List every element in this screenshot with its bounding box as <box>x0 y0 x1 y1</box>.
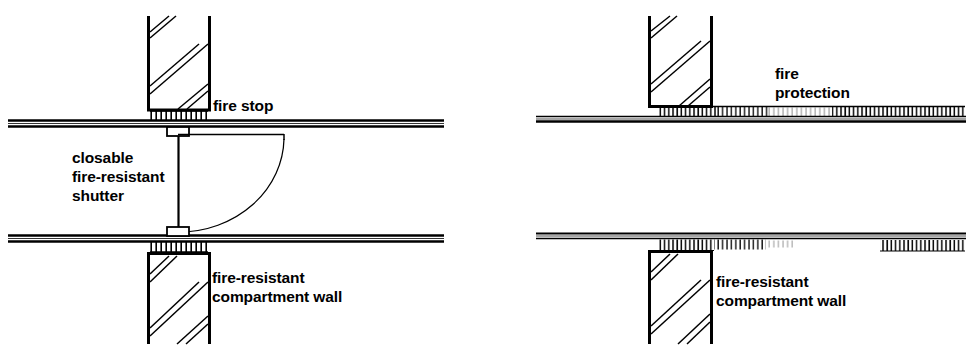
lower-compartment-wall-right <box>648 250 713 344</box>
label-closable-fire-resistant-shutter: closable fire-resistant shutter <box>72 148 165 205</box>
shutter-swing-arc-left <box>178 134 284 232</box>
upper-compartment-wall-left <box>147 16 211 111</box>
fire-compartmentation-figure: fire stop closable fire-resistant shutte… <box>0 0 975 358</box>
ceiling-slab-right <box>536 117 966 122</box>
ceiling-slab-left <box>8 121 444 127</box>
shutter-sill-box-left <box>167 227 189 236</box>
label-fire-protection: fire protection <box>775 64 850 102</box>
fire-stop-packing-left <box>150 111 208 121</box>
lower-compartment-wall-left <box>147 252 211 344</box>
fire-protection-lining-lower <box>658 240 965 252</box>
label-fire-resistant-compartment-wall-left: fire-resistant compartment wall <box>212 268 342 306</box>
label-fire-stop: fire stop <box>213 96 273 115</box>
label-fire-resistant-compartment-wall-right: fire-resistant compartment wall <box>716 272 846 310</box>
upper-compartment-wall-right <box>648 16 713 108</box>
floor-slab-left <box>8 236 444 242</box>
floor-slab-right <box>536 234 966 239</box>
fire-stop-packing-lower-left <box>150 242 208 252</box>
